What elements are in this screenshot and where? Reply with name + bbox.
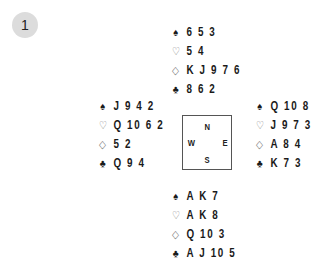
spade-icon: ♠ bbox=[254, 97, 265, 116]
club-icon: ♣ bbox=[170, 80, 181, 99]
west-hearts-cards: Q 10 6 2 bbox=[113, 116, 164, 135]
hand-north: ♠ 6 5 3 ♡ 5 4 ◇ K J 9 7 6 ♣ 8 6 2 bbox=[170, 23, 241, 99]
diamond-icon: ◇ bbox=[97, 135, 108, 154]
hand-east: ♠ Q 10 8 ♡ J 9 7 3 ◇ A 8 4 ♣ K 7 3 bbox=[254, 97, 312, 173]
north-clubs-cards: 8 6 2 bbox=[186, 80, 216, 99]
board-number-badge: 1 bbox=[12, 12, 38, 38]
heart-icon: ♡ bbox=[170, 42, 181, 61]
east-hearts-cards: J 9 7 3 bbox=[270, 116, 312, 135]
north-diamonds-row: ◇ K J 9 7 6 bbox=[170, 61, 241, 80]
south-hearts-row: ♡ A K 8 bbox=[170, 206, 236, 225]
west-clubs-row: ♣ Q 9 4 bbox=[97, 154, 164, 173]
hand-south: ♠ A K 7 ♡ A K 8 ◇ Q 10 3 ♣ A J 10 5 bbox=[170, 187, 236, 263]
compass-box: N W E S bbox=[182, 115, 232, 170]
diamond-icon: ◇ bbox=[170, 61, 181, 80]
west-spades-row: ♠ J 9 4 2 bbox=[97, 97, 164, 116]
west-diamonds-cards: 5 2 bbox=[113, 135, 132, 154]
heart-icon: ♡ bbox=[97, 116, 108, 135]
south-clubs-cards: A J 10 5 bbox=[186, 244, 236, 263]
east-spades-row: ♠ Q 10 8 bbox=[254, 97, 312, 116]
south-clubs-row: ♣ A J 10 5 bbox=[170, 244, 236, 263]
south-diamonds-row: ◇ Q 10 3 bbox=[170, 225, 236, 244]
spade-icon: ♠ bbox=[170, 187, 181, 206]
north-hearts-row: ♡ 5 4 bbox=[170, 42, 241, 61]
west-hearts-row: ♡ Q 10 6 2 bbox=[97, 116, 164, 135]
diamond-icon: ◇ bbox=[170, 225, 181, 244]
south-spades-row: ♠ A K 7 bbox=[170, 187, 236, 206]
club-icon: ♣ bbox=[170, 244, 181, 263]
east-diamonds-row: ◇ A 8 4 bbox=[254, 135, 312, 154]
heart-icon: ♡ bbox=[254, 116, 265, 135]
west-spades-cards: J 9 4 2 bbox=[113, 97, 155, 116]
west-diamonds-row: ◇ 5 2 bbox=[97, 135, 164, 154]
west-clubs-cards: Q 9 4 bbox=[113, 154, 145, 173]
club-icon: ♣ bbox=[97, 154, 108, 173]
east-spades-cards: Q 10 8 bbox=[270, 97, 309, 116]
spade-icon: ♠ bbox=[170, 23, 181, 42]
south-diamonds-cards: Q 10 3 bbox=[186, 225, 225, 244]
east-hearts-row: ♡ J 9 7 3 bbox=[254, 116, 312, 135]
hand-west: ♠ J 9 4 2 ♡ Q 10 6 2 ◇ 5 2 ♣ Q 9 4 bbox=[97, 97, 164, 173]
heart-icon: ♡ bbox=[170, 206, 181, 225]
north-diamonds-cards: K J 9 7 6 bbox=[186, 61, 241, 80]
east-diamonds-cards: A 8 4 bbox=[270, 135, 301, 154]
east-clubs-cards: K 7 3 bbox=[270, 154, 302, 173]
compass-south-label: S bbox=[204, 155, 209, 165]
spade-icon: ♠ bbox=[97, 97, 108, 116]
north-spades-cards: 6 5 3 bbox=[186, 23, 216, 42]
north-clubs-row: ♣ 8 6 2 bbox=[170, 80, 241, 99]
board-number: 1 bbox=[21, 17, 29, 33]
compass-east-label: E bbox=[222, 138, 227, 148]
north-hearts-cards: 5 4 bbox=[186, 42, 205, 61]
north-spades-row: ♠ 6 5 3 bbox=[170, 23, 241, 42]
club-icon: ♣ bbox=[254, 154, 265, 173]
compass-north-label: N bbox=[204, 122, 210, 132]
diamond-icon: ◇ bbox=[254, 135, 265, 154]
south-hearts-cards: A K 8 bbox=[186, 206, 219, 225]
east-clubs-row: ♣ K 7 3 bbox=[254, 154, 312, 173]
south-spades-cards: A K 7 bbox=[186, 187, 219, 206]
compass-west-label: W bbox=[188, 138, 195, 148]
